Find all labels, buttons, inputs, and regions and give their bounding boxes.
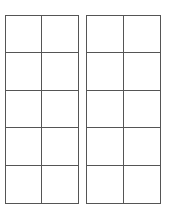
frame-cell: [42, 128, 78, 165]
frame-cell: [124, 128, 161, 165]
frame-cell: [87, 53, 124, 90]
frame-cell: [124, 16, 161, 53]
frame-cell: [87, 16, 124, 53]
frame-cell: [87, 91, 124, 128]
right-ten-frame: [86, 15, 161, 204]
left-ten-frame: [5, 15, 79, 204]
frame-cell: [124, 53, 161, 90]
frame-cell: [42, 53, 78, 90]
frame-cell: [124, 91, 161, 128]
frame-cell: [6, 53, 42, 90]
frame-cell: [6, 166, 42, 203]
frame-cell: [87, 166, 124, 203]
frame-cell: [6, 128, 42, 165]
frame-cell: [42, 91, 78, 128]
frame-cell: [6, 91, 42, 128]
frame-cell: [6, 16, 42, 53]
frame-cell: [124, 166, 161, 203]
frame-cell: [42, 166, 78, 203]
frame-cell: [42, 16, 78, 53]
frame-cell: [87, 128, 124, 165]
